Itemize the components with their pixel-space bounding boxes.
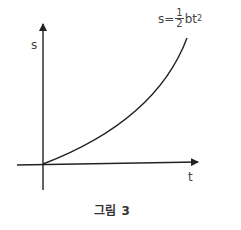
diagram-canvas (0, 0, 241, 230)
s-axis-label: s (31, 38, 37, 52)
formula-rest: bt (185, 12, 197, 26)
formula-label: s = 1 2 bt2 (158, 8, 202, 29)
figure-caption: 그림 3 (0, 201, 224, 218)
formula-exponent: 2 (197, 14, 202, 23)
formula-fraction: 1 2 (175, 8, 183, 29)
t-axis-label: t (188, 170, 193, 184)
parabola-curve (43, 38, 187, 164)
formula-eq: = (164, 12, 174, 26)
formula-denominator: 2 (176, 19, 182, 29)
